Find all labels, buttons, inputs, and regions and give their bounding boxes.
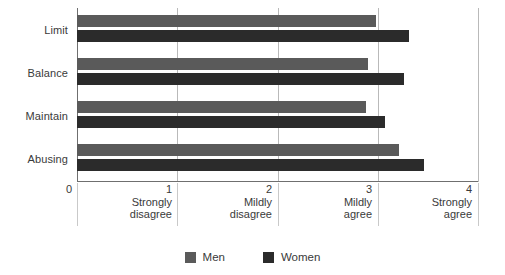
x-tick-1-line1: Strongly bbox=[108, 196, 172, 209]
bar-limit-men bbox=[77, 15, 376, 27]
x-axis-tick-labels: 0 1 Strongly disagree 2 Mildly disagree … bbox=[0, 183, 505, 239]
x-tick-2-value: 2 bbox=[208, 183, 272, 196]
x-tick-1-value: 1 bbox=[108, 183, 172, 196]
bar-maintain-women bbox=[77, 116, 385, 128]
x-tick-0-value: 0 bbox=[8, 183, 72, 196]
category-label-maintain: Maintain bbox=[0, 110, 68, 122]
gridline-4 bbox=[478, 8, 479, 182]
bar-abusing-men bbox=[77, 144, 399, 156]
chart-container: Limit Balance Maintain Abusing 0 bbox=[0, 0, 505, 275]
x-tick-1-line2: disagree bbox=[108, 208, 172, 221]
x-axis-line bbox=[77, 181, 478, 182]
legend-item-men: Men bbox=[185, 251, 225, 263]
x-tick-3-value: 3 bbox=[308, 183, 372, 196]
legend-swatch-men-icon bbox=[185, 252, 196, 263]
x-tick-3-line2: agree bbox=[308, 208, 372, 221]
chart-legend: Men Women bbox=[0, 247, 505, 267]
tick-extender-4 bbox=[478, 183, 479, 226]
category-label-limit: Limit bbox=[0, 24, 68, 36]
category-axis-labels: Limit Balance Maintain Abusing bbox=[0, 0, 68, 182]
legend-item-women: Women bbox=[263, 251, 320, 263]
legend-label-women: Women bbox=[281, 251, 320, 263]
bar-balance-men bbox=[77, 58, 368, 70]
x-tick-3: 3 Mildly agree bbox=[308, 183, 372, 221]
x-tick-2-line1: Mildly bbox=[208, 196, 272, 209]
x-tick-0: 0 bbox=[8, 183, 72, 196]
bar-maintain-men bbox=[77, 101, 366, 113]
plot-area bbox=[77, 8, 478, 182]
bar-limit-women bbox=[77, 30, 409, 42]
category-label-balance: Balance bbox=[0, 67, 68, 79]
x-tick-2: 2 Mildly disagree bbox=[208, 183, 272, 221]
bar-balance-women bbox=[77, 73, 404, 85]
x-tick-4-line2: agree bbox=[408, 208, 472, 221]
tick-extender-0 bbox=[77, 183, 78, 226]
x-tick-4-value: 4 bbox=[408, 183, 472, 196]
x-tick-1: 1 Strongly disagree bbox=[108, 183, 172, 221]
tick-extender-3 bbox=[378, 183, 379, 226]
legend-label-men: Men bbox=[203, 251, 225, 263]
x-tick-2-line2: disagree bbox=[208, 208, 272, 221]
category-label-abusing: Abusing bbox=[0, 153, 68, 165]
tick-extender-1 bbox=[177, 183, 178, 226]
x-tick-3-line1: Mildly bbox=[308, 196, 372, 209]
bar-abusing-women bbox=[77, 159, 424, 171]
tick-extender-2 bbox=[278, 183, 279, 226]
legend-swatch-women-icon bbox=[263, 252, 274, 263]
x-tick-4: 4 Strongly agree bbox=[408, 183, 472, 221]
x-tick-4-line1: Strongly bbox=[408, 196, 472, 209]
